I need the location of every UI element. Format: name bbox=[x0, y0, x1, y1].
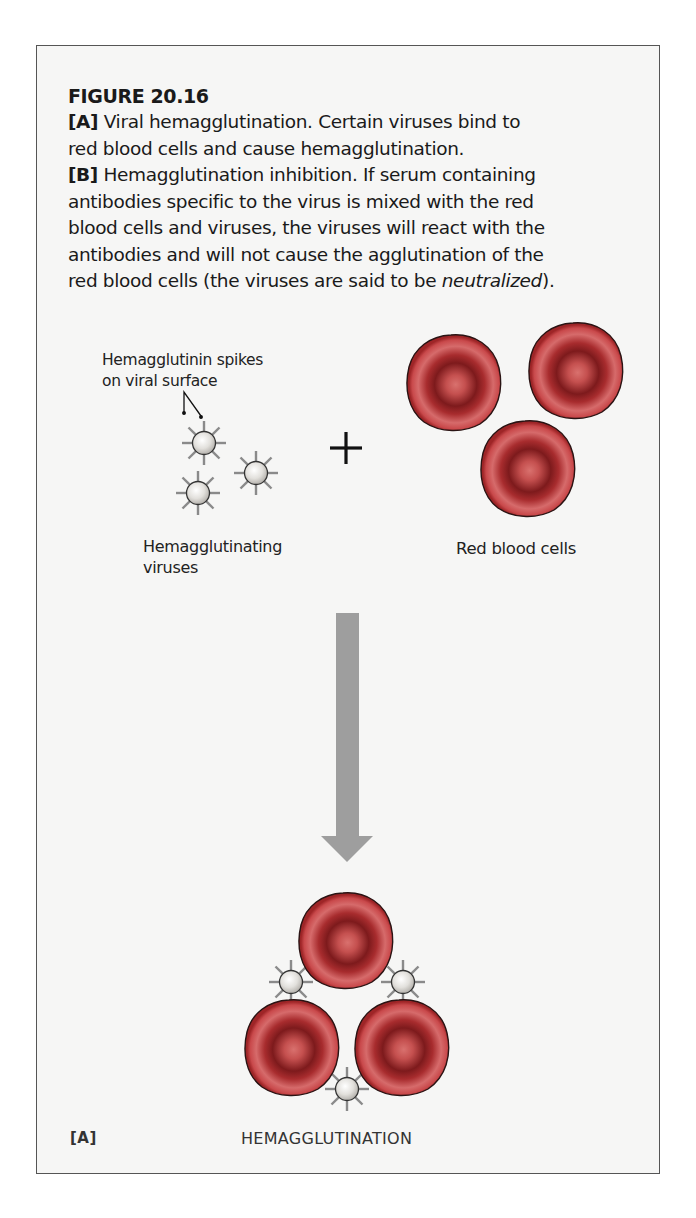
viruses-label-line2: viruses bbox=[143, 557, 282, 578]
virus-particle-icon bbox=[234, 451, 278, 495]
red-blood-cells-label: Red blood cells bbox=[456, 538, 576, 559]
agglutinated-cluster bbox=[245, 893, 449, 1111]
spike-pointer-lines bbox=[183, 392, 203, 418]
plus-icon bbox=[330, 432, 362, 464]
red-blood-cell-icon bbox=[407, 335, 501, 431]
virus-particle-icon bbox=[381, 960, 425, 1004]
red-blood-cell-icon bbox=[245, 1000, 339, 1096]
spikes-label: Hemagglutinin spikes on viral surface bbox=[102, 350, 263, 392]
panel-label: [A] bbox=[70, 1129, 97, 1147]
viruses-label-line1: Hemagglutinating bbox=[143, 536, 282, 557]
down-arrow-icon bbox=[321, 613, 373, 862]
red-blood-cell-icon bbox=[299, 893, 393, 989]
red-blood-cell-icon bbox=[355, 1000, 449, 1096]
red-blood-cell-icon bbox=[529, 323, 623, 419]
virus-particle-icon bbox=[182, 421, 226, 465]
hemagglutination-label: HEMAGGLUTINATION bbox=[241, 1129, 412, 1148]
viruses-label: Hemagglutinating viruses bbox=[143, 536, 282, 578]
virus-particle-icon bbox=[176, 471, 220, 515]
spikes-label-line1: Hemagglutinin spikes bbox=[102, 350, 263, 371]
hemagglutination-diagram bbox=[0, 0, 696, 1218]
spikes-label-line2: on viral surface bbox=[102, 371, 263, 392]
red-blood-cell-icon bbox=[481, 421, 575, 517]
